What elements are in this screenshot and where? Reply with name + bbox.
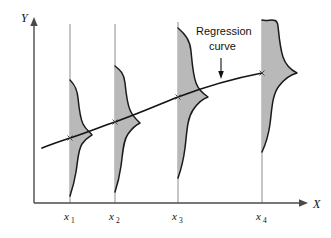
tick-label-x4-subscript: 4	[263, 216, 267, 225]
tick-label-x1-subscript: 1	[71, 216, 75, 225]
regression-annotation-line2: curve	[209, 40, 236, 52]
tick-label-x2-base: x	[108, 210, 114, 222]
tick-label-x3-subscript: 3	[179, 216, 183, 225]
y-axis-label: Y	[21, 11, 29, 25]
tick-label-x3-base: x	[171, 210, 177, 222]
tick-label-x1: x 1	[63, 210, 75, 225]
tick-label-x2-subscript: 2	[116, 216, 120, 225]
figure-text-layer: Y X x 1 x 2 x 3 x 4 Regression curve	[0, 0, 331, 238]
regression-curve-figure: Y X x 1 x 2 x 3 x 4 Regression curve	[0, 0, 331, 238]
tick-label-x4: x 4	[255, 210, 267, 225]
tick-label-x3: x 3	[171, 210, 183, 225]
tick-label-x1-base: x	[63, 210, 69, 222]
tick-label-x4-base: x	[255, 210, 261, 222]
regression-annotation-line1: Regression	[196, 25, 252, 37]
tick-label-x2: x 2	[108, 210, 120, 225]
x-axis-label: X	[312, 197, 321, 211]
regression-annotation: Regression curve	[196, 25, 252, 52]
